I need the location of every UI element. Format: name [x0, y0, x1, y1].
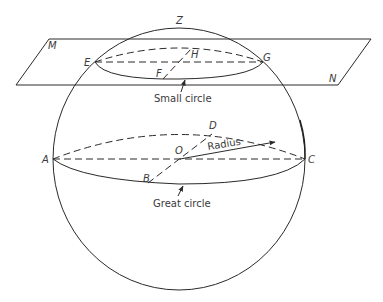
great-circle-front-arc: [53, 159, 305, 184]
label-h: H: [191, 49, 199, 60]
small-circle-diameter-fh: [163, 48, 192, 79]
small-circle-front-arc: [95, 62, 263, 79]
plane-mn: [16, 39, 371, 85]
small-circle-back-arc: [95, 48, 263, 62]
label-g: G: [263, 52, 271, 63]
label-f: F: [156, 68, 162, 79]
great-circle-pointer: [178, 186, 183, 196]
small-circle-pointer: [181, 80, 185, 92]
caption-radius: Radius: [207, 136, 242, 152]
label-b: B: [143, 173, 150, 184]
label-a: A: [41, 154, 49, 165]
label-c: C: [308, 154, 315, 165]
label-m: M: [48, 40, 57, 51]
label-z: Z: [175, 15, 184, 26]
caption-great-circle: Great circle: [153, 198, 211, 209]
label-o: O: [175, 145, 183, 156]
sphere-diagram: Z M N E H G F D O A C B Radius Small cir…: [0, 0, 383, 302]
caption-small-circle: Small circle: [154, 93, 212, 104]
label-n: N: [329, 73, 337, 84]
label-e: E: [84, 57, 91, 68]
label-d: D: [209, 120, 217, 131]
